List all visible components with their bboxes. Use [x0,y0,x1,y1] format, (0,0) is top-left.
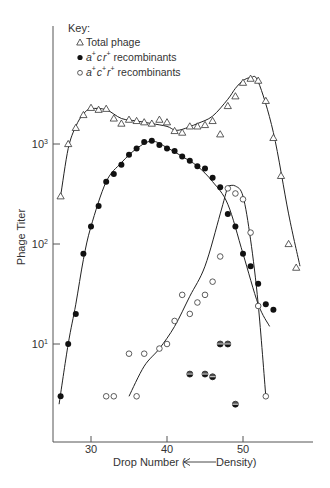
filled-circle-marker [255,281,261,287]
open-triangle-marker [194,123,201,129]
open-triangle-marker [201,121,208,127]
open-circle-marker [126,351,132,357]
filled-circle-marker [96,203,102,209]
open-triangle-marker [270,134,277,140]
filled-circle-marker [65,341,71,347]
open-triangle-marker [57,193,64,199]
half-filled-circle-marker [232,401,238,407]
legend: Key: Total phage a+ c r+ recombinants a+… [68,22,181,78]
filled-circle-marker [88,223,94,229]
open-triangle-marker [118,120,125,126]
filled-circle-marker [240,251,246,257]
filled-circle-marker [141,139,147,145]
y-axis-ticks: 101102103 [32,138,60,350]
open-circle-marker [172,318,178,324]
open-circle-marker [187,311,193,317]
filled-circle-marker [134,146,140,152]
x-tick-label: 30 [85,443,97,455]
open-triangle-marker [125,116,132,122]
y-tick-label: 103 [32,138,48,150]
legend-label-suffix: recombinants [118,66,181,78]
x-axis-title: Drop Number ( Density) [113,456,256,468]
open-circle-marker [233,191,239,197]
legend-sup: + [111,65,115,72]
half-filled-circle-marker [187,371,193,377]
open-triangle-marker [224,102,231,108]
filled-circle-marker [156,142,162,148]
filled-circle-marker [248,263,254,269]
filled-circle-marker [149,138,155,144]
legend-sup: + [92,50,96,57]
open-triangle-marker [163,119,170,125]
open-circle-marker [141,351,147,357]
open-circle-marker [217,254,223,260]
open-circle-marker [134,393,140,399]
y-tick-label: 101 [32,338,48,350]
x-axis-title-left: Drop Number ( [113,456,186,468]
filled-circle-marker [225,211,231,217]
filled-circle-icon [76,51,86,64]
filled-circle-marker [172,148,178,154]
open-circle-marker [195,300,201,306]
filled-circle-marker [126,152,132,158]
fitted-curve [228,185,266,396]
filled-circle-marker [270,307,276,313]
fitted-curve [129,186,228,396]
data-points [57,75,300,407]
open-triangle-marker [262,97,269,103]
legend-label-suffix: recombinants [113,51,176,63]
filled-circle-marker [73,311,79,317]
filled-circle-marker [179,153,185,159]
legend-gene-c: c [97,51,102,63]
half-filled-circle-marker [210,374,216,380]
legend-sup: + [102,65,106,72]
open-circle-marker [255,303,261,309]
legend-item-acplusr-recombinants: a+ c+ r+ recombinants [68,63,181,78]
x-axis-title-right: Density) [216,456,256,468]
legend-item-total-phage: Total phage [68,36,181,49]
open-circle-marker [240,196,246,202]
filled-circle-marker [210,175,216,181]
filled-circle-marker [103,179,109,185]
open-triangle-marker [217,131,224,137]
open-triangle-marker [156,116,163,122]
open-circle-marker [210,279,216,285]
filled-circle-marker [111,171,117,177]
x-tick-label: 40 [161,443,173,455]
y-tick-label: 102 [32,238,48,250]
legend-item-acr-recombinants: a+ c r+ recombinants [68,48,181,63]
filled-circle-marker [80,251,86,257]
legend-label: Total phage [86,36,140,48]
open-circle-marker [202,292,208,298]
open-triangle-marker [255,77,262,83]
open-triangle-icon [76,36,86,49]
filled-circle-marker [194,163,200,169]
legend-title: Key: [68,22,181,35]
open-triangle-marker [285,240,292,246]
x-axis-ticks: 304050 [85,436,249,455]
filled-circle-marker [58,393,64,399]
open-triangle-marker [103,105,110,111]
legend-sup: + [106,50,110,57]
half-filled-circle-marker [202,371,208,377]
open-triangle-marker [87,104,94,110]
open-circle-marker [248,230,254,236]
x-tick-label: 50 [237,443,249,455]
open-triangle-marker [277,172,284,178]
open-circle-marker [111,393,117,399]
filled-circle-marker [187,158,193,164]
open-triangle-marker [232,93,239,99]
half-filled-circle-marker [225,341,231,347]
filled-circle-marker [232,223,238,229]
open-triangle-marker [95,106,102,112]
fitted-curve [59,141,270,404]
half-filled-circle-marker [217,341,223,347]
open-circle-marker [225,186,231,192]
filled-circle-marker [118,162,124,168]
open-triangle-marker [72,124,79,130]
open-triangle-marker [65,140,72,146]
y-axis-title: Phage Titer [15,209,27,266]
fitted-curve [61,76,300,266]
open-triangle-marker [293,264,300,270]
fitted-curves [59,76,300,404]
